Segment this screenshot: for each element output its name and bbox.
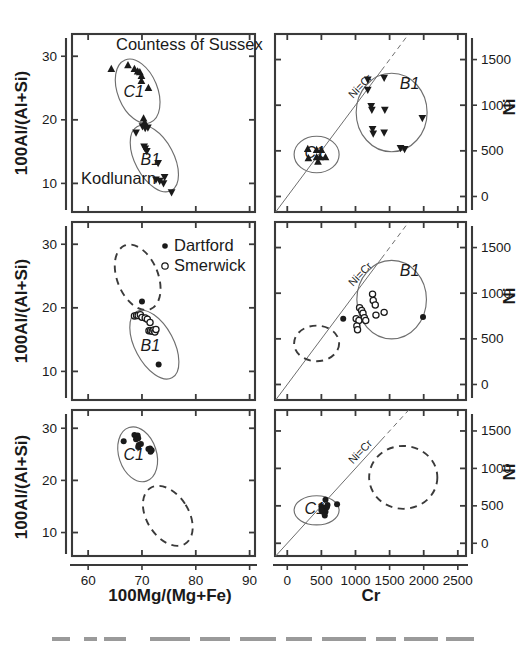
ni-equals-cr-line bbox=[276, 71, 382, 212]
panel-frame bbox=[275, 222, 466, 400]
y-axis-title-left-row2: 100Al/(Al+Si) bbox=[12, 259, 31, 363]
panels-group: C1B1102030Ni=CrC1B1050010001500B1102030N… bbox=[42, 34, 511, 588]
legend-label-dartford: Dartford bbox=[174, 236, 234, 254]
ni-equals-cr-line-dashed bbox=[381, 410, 408, 440]
ellipse-b1-reference bbox=[369, 446, 437, 509]
data-point bbox=[418, 115, 426, 122]
panel-content: Ni=CrC1B1 bbox=[276, 34, 427, 212]
y-axis-title-left-row3: 100Al/(Al+Si) bbox=[12, 435, 31, 539]
y-tick-label: 10 bbox=[42, 176, 57, 191]
group-label-b1: B1 bbox=[400, 75, 420, 92]
y-tick-label: 0 bbox=[481, 536, 489, 551]
caption-fragment bbox=[52, 637, 474, 641]
data-point bbox=[148, 449, 154, 455]
data-point bbox=[420, 314, 426, 320]
data-point bbox=[340, 316, 346, 322]
data-point bbox=[153, 326, 159, 332]
y-tick-label: 10 bbox=[42, 364, 57, 379]
y-axis-title-right-row1: Ni bbox=[500, 99, 519, 116]
x-tick-label: 2000 bbox=[409, 573, 439, 588]
annotation-countess-of-sussex: Countess of Sussex bbox=[116, 35, 263, 53]
ni-equals-cr-line-dashed bbox=[381, 222, 408, 259]
data-point bbox=[132, 130, 140, 137]
y-tick-label: 20 bbox=[42, 473, 57, 488]
panel-frame bbox=[275, 34, 466, 212]
legend-marker-smerwick bbox=[162, 263, 168, 269]
data-point bbox=[156, 361, 162, 367]
data-point bbox=[368, 107, 376, 114]
legend: Dartford Smerwick bbox=[162, 236, 246, 274]
group-label-c1: C1 bbox=[304, 500, 324, 517]
ni-equals-cr-line-dashed bbox=[381, 34, 408, 71]
group-label-c1: C1 bbox=[123, 83, 143, 100]
y-tick-label: 1500 bbox=[481, 52, 511, 67]
panel-frame bbox=[72, 410, 255, 556]
data-point bbox=[121, 438, 127, 444]
data-point bbox=[139, 298, 145, 304]
data-point bbox=[369, 130, 377, 137]
panel-panel-row2-right: Ni=CrB1050010001500 bbox=[275, 222, 511, 400]
y-tick-label: 0 bbox=[481, 377, 489, 392]
data-point bbox=[380, 75, 388, 82]
y-tick-label: 1500 bbox=[481, 240, 511, 255]
ni-equals-cr-label: Ni=Cr bbox=[346, 437, 375, 466]
panel-panel-row3-right: Ni=CrC105001000150005001000150020002500 bbox=[273, 410, 511, 588]
group-label-b1: B1 bbox=[141, 337, 161, 354]
panel-content: Ni=CrB1 bbox=[276, 222, 427, 400]
y-tick-label: 30 bbox=[42, 421, 57, 436]
ellipse-c1-reference bbox=[294, 326, 339, 362]
panel-panel-row3-left: C110203060708090 bbox=[42, 410, 257, 588]
y-tick-label: 20 bbox=[42, 300, 57, 315]
x-tick-label: 0 bbox=[284, 573, 292, 588]
y-axis-title-right-row3: Ni bbox=[500, 464, 519, 481]
x-tick-label: 500 bbox=[310, 573, 333, 588]
ellipse-c1-reference bbox=[106, 238, 170, 317]
x-axis-title-left: 100Mg/(Mg+Fe) bbox=[108, 586, 231, 605]
y-tick-label: 500 bbox=[481, 331, 504, 346]
data-point bbox=[124, 61, 132, 68]
y-tick-label: 500 bbox=[481, 143, 504, 158]
x-tick-label: 90 bbox=[242, 573, 257, 588]
data-point bbox=[168, 189, 176, 196]
panel-content: Ni=CrC1 bbox=[276, 410, 438, 556]
ni-equals-cr-line bbox=[276, 259, 382, 400]
ellipse-b1-reference bbox=[133, 477, 203, 555]
panel-content: C1 bbox=[111, 422, 203, 555]
y-tick-label: 30 bbox=[42, 49, 57, 64]
x-axis-title-right: Cr bbox=[362, 586, 381, 605]
data-point bbox=[372, 302, 378, 308]
figure-svg: C1B1102030Ni=CrC1B1050010001500B1102030N… bbox=[0, 0, 528, 646]
y-tick-label: 10 bbox=[42, 525, 57, 540]
data-point bbox=[160, 180, 168, 187]
legend-marker-dartford bbox=[162, 243, 168, 249]
y-axis-title-left-row1: 100Al/(Al+Si) bbox=[12, 71, 31, 175]
x-tick-label: 60 bbox=[81, 573, 96, 588]
figure-container: C1B1102030Ni=CrC1B1050010001500B1102030N… bbox=[0, 0, 528, 646]
data-point bbox=[107, 65, 115, 72]
data-point bbox=[354, 327, 360, 333]
y-tick-label: 0 bbox=[481, 189, 489, 204]
y-tick-label: 500 bbox=[481, 498, 504, 513]
group-label-b1: B1 bbox=[141, 151, 161, 168]
data-point bbox=[147, 319, 153, 325]
group-label-c1: C1 bbox=[304, 144, 324, 161]
group-label-c1: C1 bbox=[123, 446, 143, 463]
panel-panel-row1-right: Ni=CrC1B1050010001500 bbox=[275, 34, 511, 212]
annotation-kodlunarn: Kodlunarn bbox=[81, 169, 156, 187]
group-label-b1: B1 bbox=[400, 262, 420, 279]
x-tick-label: 2500 bbox=[443, 573, 473, 588]
y-tick-label: 20 bbox=[42, 112, 57, 127]
data-point bbox=[133, 436, 139, 442]
data-point bbox=[381, 309, 387, 315]
data-point bbox=[363, 317, 369, 323]
y-tick-label: 30 bbox=[42, 237, 57, 252]
data-point bbox=[381, 107, 389, 114]
legend-label-smerwick: Smerwick bbox=[174, 256, 246, 274]
data-point bbox=[145, 84, 153, 91]
data-point bbox=[334, 501, 340, 507]
data-point bbox=[369, 291, 375, 297]
y-axis-title-right-row2: Ni bbox=[500, 288, 519, 305]
y-tick-label: 1500 bbox=[481, 423, 511, 438]
data-point bbox=[373, 312, 379, 318]
data-point bbox=[380, 130, 388, 137]
